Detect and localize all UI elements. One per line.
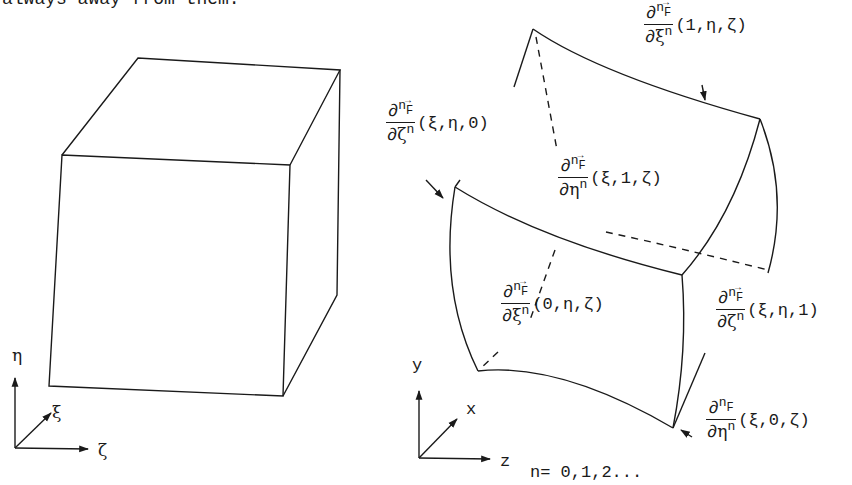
face-label-eta1: ∂n→F ∂ηn (ξ,1,ζ) xyxy=(557,158,662,199)
edge-front-tick xyxy=(455,180,460,187)
face-label-eta0: ∂nF ∂ηn (ξ,0,ζ) xyxy=(705,400,810,441)
y-axis-label: y xyxy=(412,356,422,375)
cube xyxy=(49,58,340,396)
xi-axis-label: ξ xyxy=(52,402,61,422)
edge-front-bottom xyxy=(478,370,673,428)
face-label-xi0: ∂n→F ∂ξn (0,η,ζ) xyxy=(500,284,604,325)
pointer-arrow-eta0-icon xyxy=(681,430,692,437)
zeta-axis-label: ζ xyxy=(98,440,107,460)
cube-right-face xyxy=(283,70,340,396)
face-label-zeta1: ∂n→F ∂ζn (ξ,η,1) xyxy=(715,290,819,331)
zeta-axis-arrow-icon xyxy=(15,448,88,449)
z-axis-label: z xyxy=(500,452,510,471)
edge-front-top xyxy=(455,187,682,275)
edge-top-left xyxy=(514,29,533,87)
xi-axis-arrow-icon xyxy=(15,413,51,448)
edge-bottom-right-diag xyxy=(673,353,705,428)
right-axes xyxy=(419,391,490,459)
curved-hexahedron xyxy=(450,29,777,428)
n-values-label: n= 0,1,2... xyxy=(530,463,642,482)
cube-front-face xyxy=(49,155,290,396)
x-axis-arrow-icon xyxy=(419,419,457,458)
edge-right-diag xyxy=(682,119,760,275)
edge-right-back xyxy=(760,119,777,273)
hidden-edge-left-bottom xyxy=(482,352,498,367)
hidden-edge-vertical xyxy=(536,37,557,150)
edge-front-left xyxy=(450,187,478,371)
pointer-arrow-zeta0-icon xyxy=(426,180,443,198)
face-label-zeta0: ∂n→F ∂ζn (ξ,η,0) xyxy=(385,103,489,144)
face-label-xi1: ∂n→F ∂ξn (1,η,ζ) xyxy=(643,5,747,46)
x-axis-label: x xyxy=(466,400,476,419)
cube-top-face xyxy=(62,58,340,165)
hidden-edge-back-bottom xyxy=(606,232,768,270)
z-axis-arrow-icon xyxy=(419,458,490,459)
eta-axis-label: η xyxy=(12,345,22,365)
pointer-arrow-xi1-icon xyxy=(702,85,705,100)
